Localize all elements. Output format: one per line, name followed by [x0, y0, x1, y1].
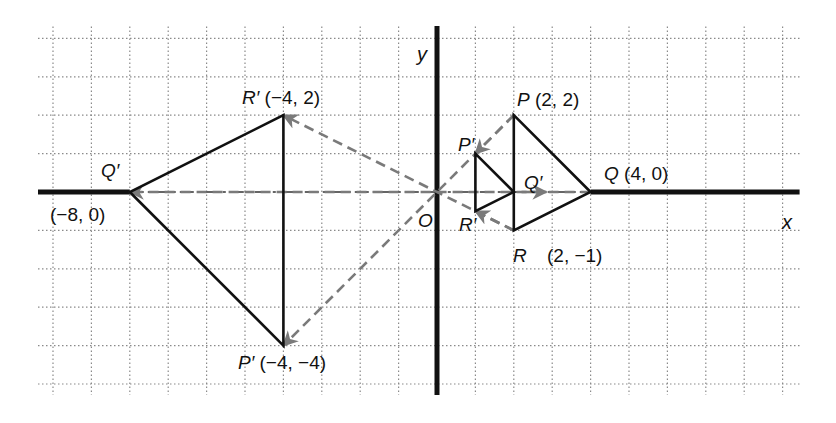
y-axis-label: y — [417, 44, 427, 64]
vertex-p-name: P — [517, 89, 530, 110]
vertex-q-name: Q — [604, 163, 619, 184]
big-r-prime-name: R′ — [242, 87, 259, 108]
big-r-prime-coords: (−4, 2) — [265, 87, 320, 108]
small-r-prime-label: R′ — [459, 215, 476, 234]
dilation-diagram: y x O P (2, 2) Q (4, 0) R (2, −1) P′ Q′ … — [0, 0, 836, 423]
big-r-prime-label: R′ (−4, 2) — [242, 88, 320, 107]
small-p-prime-label: P′ — [458, 135, 474, 154]
ray-r-to-small-r-prime — [475, 211, 513, 230]
ray-p-to-small-p-prime — [475, 115, 513, 153]
vertex-r-coords: (2, −1) — [547, 246, 602, 265]
big-p-prime-name: P′ — [238, 352, 254, 373]
vertex-q-coords: (4, 0) — [624, 163, 668, 184]
vertex-r-name: R — [513, 246, 527, 265]
triangle-image-half — [475, 154, 513, 212]
big-p-prime-coords: (−4, −4) — [260, 352, 327, 373]
big-q-prime-name: Q′ — [101, 161, 119, 180]
vertex-p-label: P (2, 2) — [517, 90, 579, 109]
origin-label: O — [418, 211, 433, 230]
x-axis-label: x — [782, 212, 792, 232]
vertex-p-coords: (2, 2) — [535, 89, 579, 110]
small-q-prime-label: Q′ — [524, 173, 542, 192]
big-p-prime-label: P′ (−4, −4) — [238, 353, 326, 372]
big-q-prime-coords: (−8, 0) — [50, 205, 105, 224]
vertex-q-label: Q (4, 0) — [604, 164, 668, 183]
